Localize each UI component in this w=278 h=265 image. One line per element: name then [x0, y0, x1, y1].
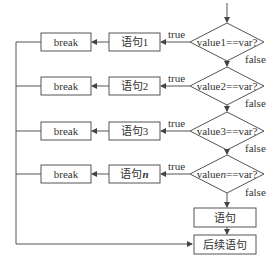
- flowchart: value1==var? value2==var? value3==var? v…: [0, 0, 278, 265]
- condition-n: valuen==var?: [197, 168, 258, 180]
- statement-label-3: 语句3: [121, 125, 149, 137]
- break-label-n: break: [54, 168, 79, 180]
- true-label-3: true: [168, 117, 185, 129]
- false-label-2: false: [245, 97, 266, 109]
- default-statement-label: 语句: [214, 212, 236, 224]
- true-label-2: true: [168, 72, 185, 84]
- statement-label-n: 语句n: [120, 168, 148, 180]
- true-label-n: true: [168, 160, 185, 172]
- break-label-2: break: [54, 80, 79, 92]
- false-label-3: false: [245, 142, 266, 154]
- break-label-1: break: [54, 36, 79, 48]
- condition-2: value2==var?: [197, 80, 258, 92]
- condition-1: value1==var?: [197, 36, 258, 48]
- statement-label-1: 语句1: [121, 36, 149, 48]
- condition-3: value3==var?: [197, 125, 258, 137]
- statement-label-2: 语句2: [121, 80, 149, 92]
- false-label-1: false: [245, 53, 266, 65]
- true-label-1: true: [168, 28, 185, 40]
- next-statement-label: 后续语句: [203, 238, 247, 251]
- break-label-3: break: [54, 125, 79, 137]
- false-label-n: false: [245, 186, 266, 198]
